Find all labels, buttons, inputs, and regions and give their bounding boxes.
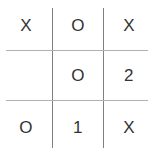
- grid-horizontal-line-1: [6, 50, 148, 51]
- grid-cell-r0c0[interactable]: X: [0, 0, 52, 50]
- tic-tac-toe-grid: X O X O 2 O 1 X: [0, 0, 154, 154]
- grid-cell-r0c2[interactable]: X: [104, 0, 154, 50]
- grid-cell-r2c2[interactable]: X: [104, 101, 154, 154]
- grid-cell-r2c1[interactable]: 1: [53, 101, 103, 154]
- grid-cell-r1c0[interactable]: [0, 51, 52, 100]
- grid-cell-r1c1[interactable]: O: [53, 51, 103, 100]
- grid-cell-r1c2[interactable]: 2: [104, 51, 154, 100]
- grid-vertical-line-2: [103, 8, 104, 148]
- grid-horizontal-line-2: [6, 100, 148, 101]
- grid-cell-r0c1[interactable]: O: [53, 0, 103, 50]
- grid-vertical-line-1: [52, 8, 53, 148]
- grid-cell-r2c0[interactable]: O: [0, 101, 52, 154]
